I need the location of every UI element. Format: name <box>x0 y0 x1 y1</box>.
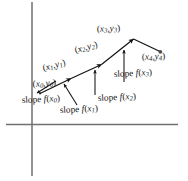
point-label-x3y3: (x3,y3) <box>97 24 121 35</box>
slope-label-3: slope f(x3) <box>114 68 153 79</box>
euler-polyline-figure: (x0,y0) (x1,y1) (x2,y2) (x3,y3) (x4,y4) … <box>0 0 188 181</box>
slope-label-2: slope f(x2) <box>98 92 137 103</box>
slope-label-1: slope f(x1) <box>60 104 99 115</box>
polyline-group <box>0 0 188 181</box>
slope-label-0: slope f(x0) <box>22 94 61 105</box>
pointer-arrow-slope-1 <box>64 84 77 105</box>
segment-1 <box>71 65 102 79</box>
segment-2 <box>102 39 134 65</box>
segment-3 <box>134 39 161 52</box>
point-label-x4y4: (x4,y4) <box>142 52 166 63</box>
point-label-x0y0: (x0,y0) <box>32 78 56 89</box>
